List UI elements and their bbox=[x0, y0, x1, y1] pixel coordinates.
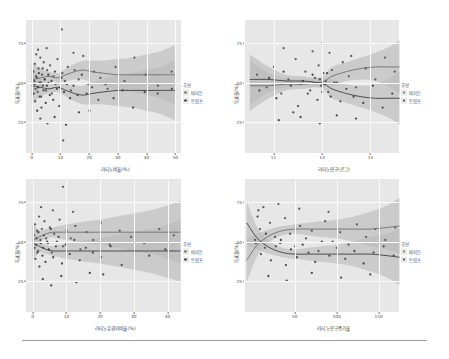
legend-item-trump[interactable]: 트럼프 bbox=[183, 98, 223, 104]
legend-item-biden[interactable]: 바이든 bbox=[401, 249, 441, 255]
scatter-point bbox=[42, 85, 44, 87]
scatter-point bbox=[306, 92, 308, 94]
scatter-point bbox=[49, 64, 51, 66]
gridline-vertical bbox=[60, 20, 61, 153]
legend-item-biden[interactable]: 바이든 bbox=[183, 249, 223, 255]
scatter-point bbox=[347, 75, 349, 77]
scatter-point bbox=[265, 86, 267, 88]
y-axis-tick-label: 50 bbox=[237, 80, 242, 85]
scatter-point bbox=[284, 264, 286, 266]
legend-item-biden[interactable]: 바이든 bbox=[401, 90, 441, 96]
footer-divider bbox=[22, 340, 427, 341]
scatter-point bbox=[311, 74, 313, 76]
scatter-point bbox=[121, 264, 123, 266]
panel-bottom-left: 득표율(%) 라티노유권자비율(%) 255075010203040 후보 바이… bbox=[6, 173, 225, 332]
gridline-vertical bbox=[175, 20, 176, 153]
scatter-point bbox=[382, 245, 384, 247]
scatter-point bbox=[77, 78, 79, 80]
x-axis-tick-mark bbox=[370, 153, 371, 155]
legend-item-trump[interactable]: 트럼프 bbox=[401, 98, 441, 104]
scatter-point bbox=[36, 251, 38, 253]
scatter-point bbox=[292, 111, 294, 113]
x-axis-tick-mark bbox=[273, 153, 274, 155]
legend: 후보 바이든 트럼프 bbox=[183, 240, 223, 265]
scatter-point bbox=[62, 245, 64, 247]
scatter-point bbox=[298, 225, 300, 227]
y-axis-tick-mark bbox=[24, 43, 26, 44]
scatter-point bbox=[289, 85, 291, 87]
legend-item-label: 트럼프 bbox=[191, 257, 203, 263]
legend-item-label: 트럼프 bbox=[409, 98, 421, 104]
y-axis-tick-label: 75 bbox=[237, 41, 242, 46]
scatter-point bbox=[158, 228, 160, 230]
scatter-point bbox=[304, 237, 306, 239]
y-axis-title: 득표율(%) bbox=[232, 84, 238, 104]
scatter-point bbox=[364, 236, 366, 238]
scatter-point bbox=[362, 262, 364, 264]
gridline-vertical bbox=[100, 179, 101, 312]
scatter-point bbox=[40, 206, 42, 208]
scatter-point bbox=[350, 55, 352, 57]
scatter-point bbox=[70, 237, 72, 239]
scatter-point bbox=[79, 248, 81, 250]
scatter-point bbox=[345, 88, 347, 90]
y-axis-tick-mark bbox=[243, 202, 245, 203]
scatter-point bbox=[54, 70, 56, 72]
legend-item-biden[interactable]: 바이든 bbox=[183, 90, 223, 96]
scatter-point bbox=[51, 92, 53, 94]
scatter-point bbox=[78, 111, 80, 113]
scatter-point bbox=[318, 78, 320, 80]
scatter-point bbox=[34, 63, 36, 65]
scatter-point bbox=[267, 275, 269, 277]
scatter-point bbox=[50, 284, 52, 286]
y-axis-tick-mark bbox=[243, 43, 245, 44]
x-axis-tick-mark bbox=[100, 312, 101, 314]
scatter-point bbox=[69, 97, 71, 99]
scatter-point bbox=[82, 55, 84, 57]
scatter-point bbox=[57, 236, 59, 238]
scatter-point bbox=[328, 255, 330, 257]
scatter-point bbox=[46, 85, 48, 87]
x-axis-tick-mark bbox=[378, 312, 379, 314]
gridline-horizontal bbox=[245, 281, 400, 282]
scatter-point bbox=[275, 97, 277, 99]
x-axis-tick-label: 10 bbox=[58, 155, 63, 160]
x-axis-tick-label: 40 bbox=[144, 155, 149, 160]
x-axis-tick-mark bbox=[167, 312, 168, 314]
y-axis-tick-mark bbox=[24, 241, 26, 242]
scatter-point bbox=[56, 58, 58, 60]
y-axis-tick-mark bbox=[24, 121, 26, 122]
scatter-point bbox=[372, 251, 374, 253]
legend-item-trump[interactable]: 트럼프 bbox=[183, 257, 223, 263]
scatter-point bbox=[148, 255, 150, 257]
x-axis-tick-mark bbox=[60, 153, 61, 155]
legend-item-trump[interactable]: 트럼프 bbox=[401, 257, 441, 263]
gridline-vertical bbox=[379, 179, 380, 312]
scatter-point bbox=[258, 228, 260, 230]
scatter-point bbox=[43, 220, 45, 222]
legend-title: 후보 bbox=[183, 81, 223, 87]
scatter-point bbox=[99, 77, 101, 79]
y-axis-tick-label: 75 bbox=[237, 200, 242, 205]
scatter-point bbox=[34, 100, 36, 102]
scatter-point bbox=[74, 225, 76, 227]
scatter-point bbox=[274, 245, 276, 247]
scatter-point bbox=[47, 74, 49, 76]
scatter-point bbox=[171, 88, 173, 90]
scatter-point bbox=[70, 89, 72, 91]
scatter-point bbox=[339, 231, 341, 233]
x-axis-tick-label: 20 bbox=[97, 314, 102, 319]
scatter-point bbox=[61, 262, 63, 264]
scatter-point bbox=[282, 70, 284, 72]
gridline-vertical bbox=[168, 179, 169, 312]
y-axis-tick-label: 75 bbox=[18, 41, 23, 46]
gridline-vertical bbox=[322, 20, 323, 153]
scatter-point bbox=[61, 72, 63, 74]
scatter-point bbox=[288, 233, 290, 235]
x-axis-tick-label: 10 bbox=[64, 314, 69, 319]
y-axis-tick-mark bbox=[243, 82, 245, 83]
scatter-point bbox=[369, 273, 371, 275]
scatter-point bbox=[264, 233, 266, 235]
scatter-point bbox=[69, 253, 71, 255]
plot-area: 25507501020304050 bbox=[26, 20, 181, 153]
